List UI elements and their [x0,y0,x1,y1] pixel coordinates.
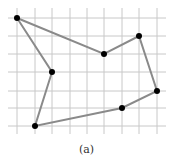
vertex-dot [136,33,142,39]
vertex-dot [14,15,20,21]
vertex-dot [119,105,125,111]
figure-caption: (a) [0,143,173,156]
vertex-dot [154,88,160,94]
polygon-grid-figure [0,0,173,140]
vertex-dot [32,123,38,129]
vertex-dot [101,51,107,57]
vertex-dot [49,69,55,75]
